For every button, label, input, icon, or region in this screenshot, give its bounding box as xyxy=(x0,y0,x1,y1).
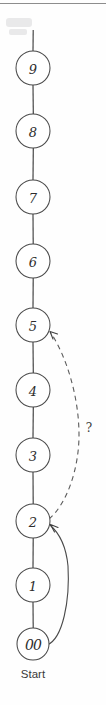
node-8[interactable]: 8 xyxy=(16,114,50,148)
node-label: 8 xyxy=(29,125,37,140)
start-caption: Start xyxy=(21,668,46,680)
question-mark-annotation: ? xyxy=(86,421,92,435)
node-label: 9 xyxy=(29,62,37,77)
node-7[interactable]: 7 xyxy=(16,180,50,214)
node-5[interactable]: 5 xyxy=(16,308,50,342)
node-9[interactable]: 9 xyxy=(16,51,50,85)
node-3[interactable]: 3 xyxy=(16,438,50,472)
node-label: 6 xyxy=(29,255,37,270)
node-label: 2 xyxy=(28,515,37,530)
node-1[interactable]: 1 xyxy=(16,568,50,602)
arrowhead-into-2-solid xyxy=(51,525,59,533)
node-label: 5 xyxy=(29,319,37,334)
node-start-00[interactable]: 00 xyxy=(17,628,49,660)
feedback-curve-dashed xyxy=(49,333,79,519)
node-label: 4 xyxy=(28,384,37,399)
node-2[interactable]: 2 xyxy=(16,504,50,538)
scan-artifact xyxy=(6,18,32,35)
node-label: 00 xyxy=(25,637,42,653)
node-label: 7 xyxy=(29,191,38,206)
feedback-edge-2-to-5 xyxy=(49,332,79,520)
node-label: 1 xyxy=(29,579,37,594)
node-6[interactable]: 6 xyxy=(16,244,50,278)
node-label: 3 xyxy=(29,449,37,464)
state-chain-diagram: 9 8 7 6 5 4 3 2 xyxy=(0,0,106,705)
node-4[interactable]: 4 xyxy=(16,373,50,407)
diagram-canvas: 9 8 7 6 5 4 3 2 xyxy=(0,0,106,705)
